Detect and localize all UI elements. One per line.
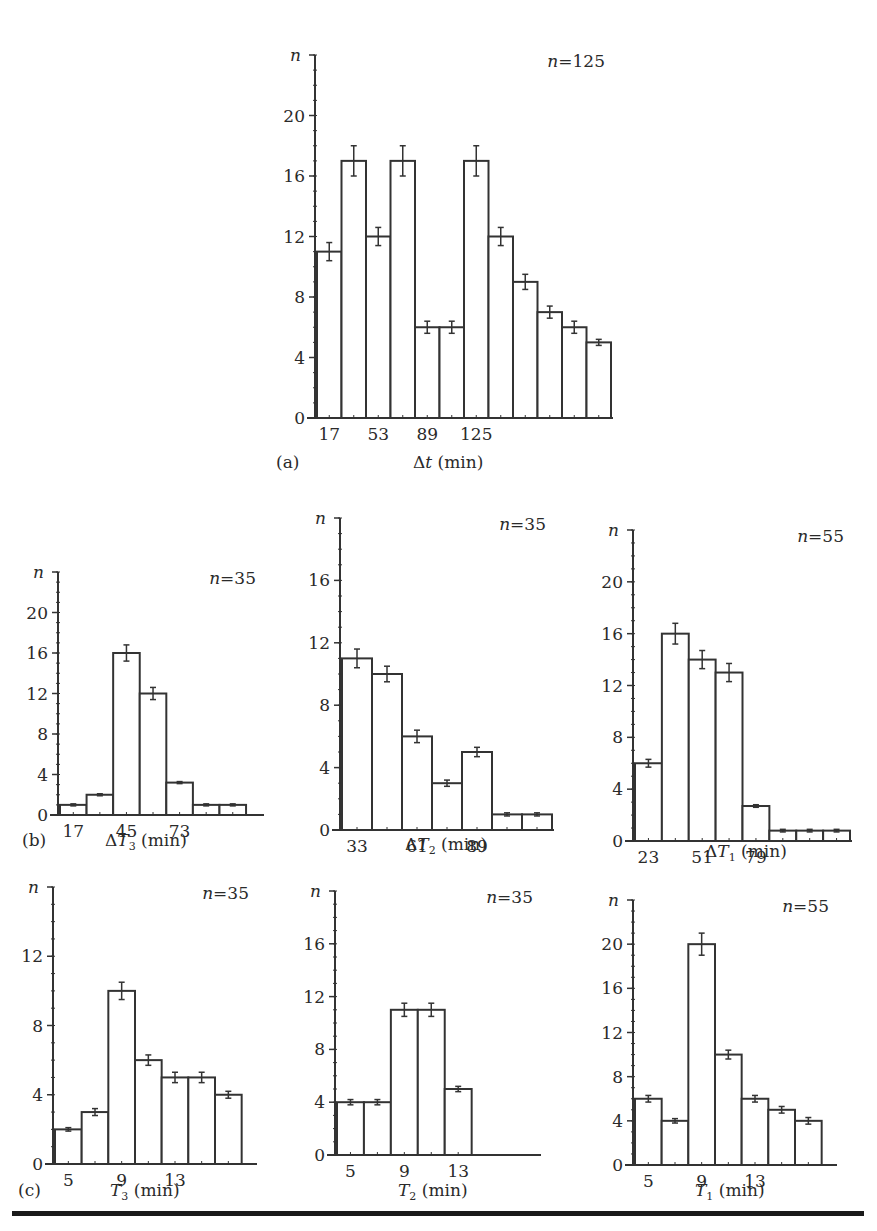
x-axis-title-T3: T3 (min) [110, 1180, 180, 1203]
svg-text:0: 0 [612, 1155, 623, 1175]
svg-text:16: 16 [601, 978, 623, 998]
bottom-rule [12, 1211, 864, 1216]
svg-text:20: 20 [601, 934, 623, 954]
svg-text:n=55: n=55 [782, 896, 829, 916]
chart-svg: 048121620n5913n=55 [0, 0, 877, 1231]
svg-text:5: 5 [643, 1171, 654, 1191]
panel-label-c: (c) [18, 1180, 41, 1200]
svg-text:n: n [608, 890, 619, 910]
svg-text:12: 12 [601, 1023, 623, 1043]
x-axis-title-T1: T1 (min) [695, 1180, 765, 1203]
svg-text:8: 8 [612, 1067, 623, 1087]
x-axis-title-T2: T2 (min) [398, 1180, 468, 1203]
svg-text:4: 4 [612, 1111, 623, 1131]
